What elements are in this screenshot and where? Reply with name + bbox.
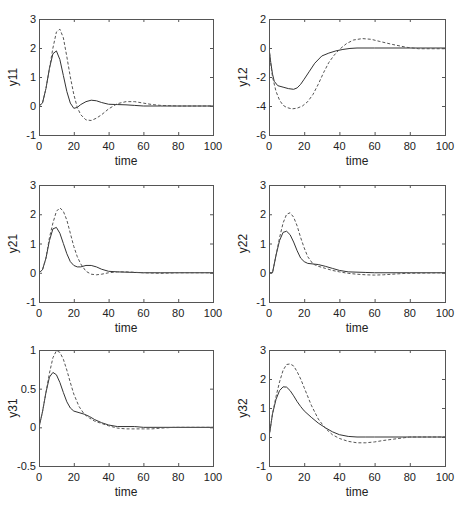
y-tick-label: 0 [30,100,36,112]
y-axis-label: y22 [236,234,250,254]
x-tick-label: 80 [172,471,184,483]
x-tick-label: 0 [266,307,272,319]
y-tick-label: 3 [30,179,36,191]
series-dashed-line [269,39,445,109]
y-tick-label: 2 [30,42,36,54]
x-tick-label: 60 [137,140,149,152]
x-tick-label: 20 [68,471,80,483]
y-tick-label: 0 [260,431,266,443]
series-dashed-line [269,364,445,443]
y-tick-label: 0 [30,267,36,279]
y-tick-label: -1 [256,296,266,308]
x-tick-label: 100 [436,140,454,152]
x-axis-label: time [115,154,138,168]
y-axis-label: y12 [236,67,250,87]
series-dashed-line [269,213,445,275]
figure-canvas: 020406080100-10123timey11 020406080100-6… [0,0,464,506]
x-tick-label: 80 [172,307,184,319]
series-dashed-line [39,208,213,275]
axes-frame [270,186,446,303]
series-dashed-line [39,29,213,120]
y-tick-label: 1 [30,344,36,356]
y-axis-label: y11 [6,67,20,86]
y-tick-label: 2 [30,208,36,220]
y-tick-label: -1 [26,129,36,141]
axes-frame [40,186,214,303]
y-tick-label: -1 [26,296,36,308]
series-solid-line [39,372,213,427]
y-tick-label: 1 [30,71,36,83]
y-tick-label: 1 [260,402,266,414]
y-tick-label: 1 [260,238,266,250]
y-tick-label: 3 [260,179,266,191]
x-axis-label: time [346,321,369,335]
x-tick-label: 0 [266,140,272,152]
x-tick-label: 40 [333,307,345,319]
y-axis-label: y21 [6,234,20,254]
subplot-y31: 020406080100-0.500.51timey31 [6,344,222,499]
series-dashed-line [39,351,213,429]
x-tick-label: 0 [36,140,42,152]
y-tick-label: 0 [30,421,36,433]
series-solid-line [269,387,445,437]
x-tick-label: 60 [368,307,380,319]
axes-frame [270,20,446,136]
x-tick-label: 20 [298,140,310,152]
x-tick-label: 40 [102,307,114,319]
y-tick-label: 0.5 [21,383,36,395]
x-tick-label: 40 [333,140,345,152]
x-tick-label: 100 [204,471,222,483]
x-tick-label: 60 [137,471,149,483]
y-tick-label: -4 [256,100,266,112]
y-tick-label: -0.5 [17,460,36,472]
x-tick-label: 0 [36,307,42,319]
y-axis-label: y31 [6,398,20,418]
series-solid-line [39,227,213,272]
x-axis-label: time [346,485,369,499]
x-axis-label: time [115,485,138,499]
x-axis-label: time [115,321,138,335]
x-tick-label: 100 [436,471,454,483]
x-tick-label: 80 [404,307,416,319]
axes-frame [270,351,446,467]
x-tick-label: 100 [436,307,454,319]
axes-frame [40,351,214,467]
x-tick-label: 100 [204,307,222,319]
x-tick-label: 60 [137,307,149,319]
x-tick-label: 0 [266,471,272,483]
y-tick-label: 2 [260,208,266,220]
x-tick-label: 80 [404,471,416,483]
y-tick-label: 2 [260,13,266,25]
y-axis-label: y32 [236,398,250,418]
x-tick-label: 20 [298,307,310,319]
x-tick-label: 80 [172,140,184,152]
subplot-y22: 020406080100-10123timey22 [236,179,454,335]
y-tick-label: 3 [30,13,36,25]
y-tick-label: -6 [256,129,266,141]
x-tick-label: 20 [298,471,310,483]
x-tick-label: 40 [102,471,114,483]
y-tick-label: 0 [260,42,266,54]
y-tick-label: 1 [30,238,36,250]
x-tick-label: 40 [102,140,114,152]
series-solid-line [269,231,445,273]
series-solid-line [269,48,445,89]
series-solid-line [39,51,213,108]
x-tick-label: 100 [204,140,222,152]
y-tick-label: -2 [256,71,266,83]
x-tick-label: 20 [68,307,80,319]
subplot-y11: 020406080100-10123timey11 [6,13,222,168]
subplot-y32: 020406080100-10123timey32 [236,344,454,499]
y-tick-label: 0 [260,267,266,279]
x-tick-label: 0 [36,471,42,483]
x-tick-label: 60 [368,140,380,152]
x-tick-label: 40 [333,471,345,483]
axes-frame [40,20,214,136]
subplot-y12: 020406080100-6-4-202timey12 [236,13,454,168]
x-tick-label: 60 [368,471,380,483]
subplot-y21: 020406080100-10123timey21 [6,179,222,335]
y-tick-label: 3 [260,344,266,356]
x-tick-label: 80 [404,140,416,152]
x-axis-label: time [346,154,369,168]
y-tick-label: 2 [260,373,266,385]
